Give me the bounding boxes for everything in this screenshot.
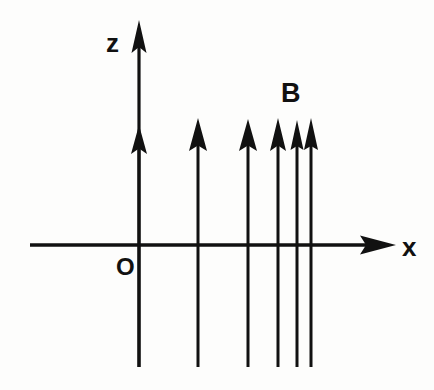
- z-axis-label: z: [106, 28, 119, 58]
- field-line-3: [239, 119, 257, 367]
- field-line-4: [270, 118, 286, 367]
- field-line-5-arrowhead: [291, 120, 304, 150]
- figure-canvas: z x O B: [0, 0, 434, 390]
- field-line-6: [304, 118, 318, 367]
- field-line-2: [189, 118, 207, 367]
- field-line-6-arrowhead: [304, 118, 318, 150]
- field-label-b: B: [281, 78, 301, 108]
- x-axis-label: x: [402, 232, 417, 262]
- origin-label: O: [116, 253, 135, 280]
- magnetic-field-diagram: z x O B: [0, 0, 434, 390]
